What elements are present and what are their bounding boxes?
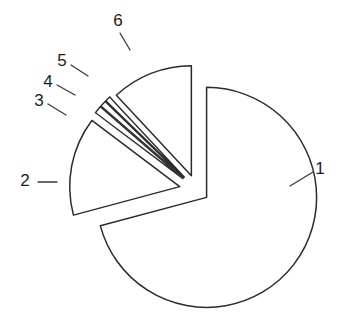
pie-chart-figure: 123456: [0, 0, 344, 313]
slice-label-2: 2: [20, 171, 29, 190]
leader-line-4: [57, 85, 75, 95]
slice-label-4: 4: [43, 72, 52, 91]
slice-label-3: 3: [34, 91, 43, 110]
leader-line-5: [71, 65, 88, 76]
slice-label-5: 5: [57, 51, 66, 70]
pie-wedges-group: [70, 66, 317, 308]
pie-chart-canvas: 123456: [0, 0, 344, 313]
leader-line-6: [120, 33, 130, 50]
slice-label-1: 1: [315, 159, 324, 178]
slice-label-6: 6: [113, 11, 122, 30]
leader-line-3: [48, 104, 66, 115]
